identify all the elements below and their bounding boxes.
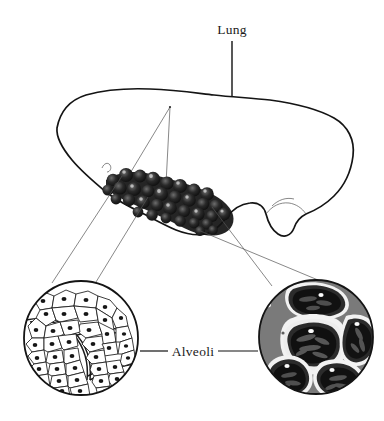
connector-cluster-to-left-circle bbox=[52, 176, 122, 283]
bronchiole-apex bbox=[169, 106, 171, 108]
alveoli-label: Alveoli bbox=[172, 344, 215, 359]
connector-cluster-to-right-circle bbox=[212, 207, 272, 286]
lung-alveoli-figure: Lung bbox=[0, 0, 384, 421]
connector-cluster-to-left-circle-inner bbox=[96, 197, 148, 282]
connector-cluster-to-right-circle-inner bbox=[198, 230, 318, 280]
right-ground-speck bbox=[281, 331, 284, 334]
alveoli-label-group: Alveoli bbox=[140, 344, 258, 359]
alveoli-detail-left bbox=[24, 281, 138, 396]
lung-label: Lung bbox=[217, 22, 247, 37]
alveoli-detail-right bbox=[259, 280, 378, 400]
figure-canvas: Lung bbox=[0, 0, 384, 421]
